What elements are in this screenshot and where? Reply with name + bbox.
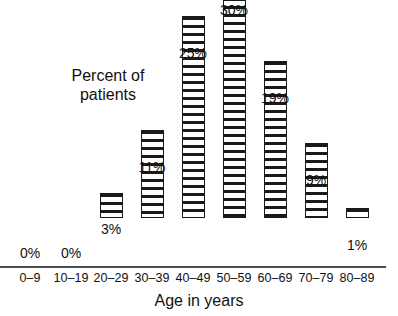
value-label-20-29: 3% — [88, 221, 134, 237]
x-axis-title: Age in years — [0, 291, 398, 311]
value-label-40-49: 25% — [170, 45, 216, 61]
tick-label-60-69: 60–69 — [252, 269, 298, 287]
plot-area: 0% 0% 3% 11% 25% 30% 19% 9% 1% Percent o… — [0, 0, 398, 268]
tick-label-50-59: 50–59 — [211, 269, 257, 287]
bar-20-29[interactable] — [100, 193, 123, 218]
tick-label-0-9: 0–9 — [7, 269, 53, 287]
value-label-30-39: 11% — [129, 159, 175, 175]
tick-label-80-89: 80–89 — [334, 269, 380, 287]
value-label-60-69: 19% — [252, 90, 298, 106]
value-label-80-89: 1% — [334, 237, 380, 253]
x-axis-tick-labels: 0–9 10–19 20–29 30–39 40–49 50–59 60–69 … — [0, 269, 398, 291]
value-label-50-59: 30% — [211, 2, 257, 18]
tick-label-70-79: 70–79 — [293, 269, 339, 287]
bar-80-89[interactable] — [346, 208, 369, 218]
tick-label-30-39: 30–39 — [129, 269, 175, 287]
tick-label-40-49: 40–49 — [170, 269, 216, 287]
y-axis-label: Percent of patients — [52, 66, 164, 104]
y-axis-label-line-1: Percent of — [52, 66, 164, 85]
value-label-10-19: 0% — [48, 245, 94, 261]
bar-chart: 0% 0% 3% 11% 25% 30% 19% 9% 1% Percent o… — [0, 0, 398, 316]
value-label-70-79: 9% — [293, 172, 339, 188]
y-axis-label-line-2: patients — [52, 85, 164, 104]
bar-60-69[interactable] — [264, 61, 287, 218]
x-axis-line — [0, 266, 386, 268]
value-label-0-9: 0% — [7, 245, 53, 261]
tick-label-20-29: 20–29 — [88, 269, 134, 287]
bar-50-59[interactable] — [223, 0, 246, 218]
